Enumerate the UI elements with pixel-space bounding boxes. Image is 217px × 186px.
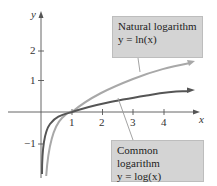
- tick-label-y2: 2: [30, 45, 36, 56]
- tick-label-x2: 2: [99, 117, 105, 128]
- tick-label-x1: 1: [69, 117, 75, 128]
- y-axis-label: y: [31, 9, 36, 20]
- ln-equation: y = ln(x): [118, 33, 197, 46]
- ln-arrow-icon: [187, 60, 195, 66]
- log-equation: y = log(x): [117, 170, 198, 183]
- tick-label-yneg1: −1: [24, 138, 36, 149]
- y-axis-arrow-icon: [39, 11, 44, 18]
- tick-label-y1: 1: [30, 75, 36, 86]
- tick-label-x4: 4: [161, 117, 167, 128]
- log-arrow-icon: [187, 88, 195, 94]
- x-axis-label: x: [199, 114, 204, 125]
- log-annotation-box: Common logarithm y = log(x): [111, 140, 204, 182]
- tick-label-x3: 3: [130, 117, 136, 128]
- ln-leader: [138, 58, 140, 72]
- ln-title: Natural logarithm: [118, 20, 197, 33]
- log-title: Common logarithm: [117, 144, 198, 170]
- ln-annotation-box: Natural logarithm y = ln(x): [112, 16, 203, 58]
